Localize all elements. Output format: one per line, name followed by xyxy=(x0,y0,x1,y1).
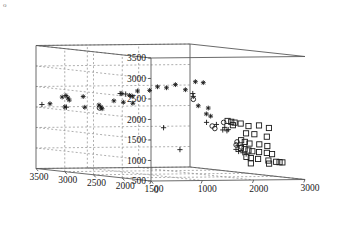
data-point-square xyxy=(255,156,260,161)
data-point-asterisk xyxy=(67,98,72,103)
data-point-plus xyxy=(177,147,182,152)
y-tick-label: 2000 xyxy=(116,181,135,191)
y-tick-label: 3500 xyxy=(30,172,49,182)
x-tick-label: 3000 xyxy=(301,183,320,193)
data-point-asterisk xyxy=(130,101,135,106)
series-circle xyxy=(97,97,244,149)
z-tick-label: 1000 xyxy=(127,156,146,166)
data-point-asterisk xyxy=(135,89,140,94)
z-tick-label: 2000 xyxy=(127,115,146,125)
data-point-square xyxy=(256,149,261,154)
data-point-asterisk xyxy=(173,82,178,87)
data-point-asterisk xyxy=(204,112,209,117)
data-point-square xyxy=(264,150,269,155)
data-point-square xyxy=(238,121,243,126)
x-tick-label: 0 xyxy=(154,185,159,195)
box-edge-top-back xyxy=(36,44,190,46)
data-point-asterisk xyxy=(206,106,211,111)
data-point-asterisk xyxy=(147,88,152,93)
floor-grid-y xyxy=(94,173,248,175)
data-point-asterisk xyxy=(81,94,86,99)
data-point-asterisk xyxy=(121,100,126,105)
back-wall-grid-z xyxy=(36,65,190,67)
box-edge-floor-back-right xyxy=(36,167,190,169)
data-point-asterisk xyxy=(183,87,188,92)
data-point-asterisk xyxy=(130,94,135,99)
data-point-square xyxy=(243,131,248,136)
data-point-asterisk xyxy=(196,103,201,108)
box-edge-floor-right xyxy=(151,180,305,182)
data-point-square xyxy=(269,152,274,157)
data-point-square xyxy=(264,134,269,139)
data-point-plus xyxy=(204,120,209,125)
data-point-plus xyxy=(161,125,166,130)
data-point-asterisk xyxy=(164,85,169,90)
data-point-square xyxy=(248,161,253,166)
x-tick-label: 2000 xyxy=(249,184,268,194)
y-tick-label: 2500 xyxy=(87,178,106,188)
data-point-square xyxy=(266,125,271,130)
data-point-asterisk xyxy=(193,79,198,84)
box-edge-floor-back-left xyxy=(190,167,305,180)
series-square xyxy=(225,118,285,166)
data-point-asterisk xyxy=(82,105,87,110)
x-tick-label: 1000 xyxy=(198,184,217,194)
z-tick-label: 1500 xyxy=(127,135,146,145)
z-tick-label: 3000 xyxy=(127,74,146,84)
data-point-plus xyxy=(39,102,44,107)
data-point-square xyxy=(257,142,262,147)
back-wall-grid-z xyxy=(36,126,190,128)
data-point-asterisk xyxy=(111,98,116,103)
back-wall-grid-z xyxy=(36,147,190,149)
data-point-asterisk xyxy=(208,114,213,119)
data-point-asterisk xyxy=(48,101,53,106)
data-point-asterisk xyxy=(201,80,206,85)
data-point-plus xyxy=(190,91,195,96)
data-point-square xyxy=(265,143,270,148)
z-tick-label: 3500 xyxy=(127,53,146,63)
data-point-square xyxy=(246,123,251,128)
data-point-asterisk xyxy=(155,84,160,89)
back-wall-grid-z xyxy=(36,106,190,108)
corner-artifact-mark: o xyxy=(3,1,7,9)
data-point-square xyxy=(256,123,261,128)
box-edge-top-right xyxy=(190,44,305,57)
floor-grid-y xyxy=(65,170,219,172)
data-point-square xyxy=(252,132,257,137)
scatter3d-plot: 5001000150020002500300035001500200025003… xyxy=(0,0,338,240)
figure-canvas: o 50010001500200025003000350015002000250… xyxy=(0,0,338,240)
box-edge-top-front xyxy=(151,57,305,59)
y-tick-label: 3000 xyxy=(58,175,77,185)
